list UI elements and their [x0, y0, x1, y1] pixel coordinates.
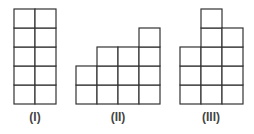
figure-i-label: (I)	[29, 110, 40, 124]
grid-cell	[222, 47, 243, 66]
figure-ii-label: (II)	[111, 110, 126, 124]
grid-cell	[97, 66, 118, 85]
grid-cell	[76, 85, 97, 104]
grid-cell	[35, 9, 56, 28]
grid-cell	[201, 85, 222, 104]
grid-cell	[201, 28, 222, 47]
grid-cell	[14, 85, 35, 104]
block-figures-diagram: (I) (II) (III)	[0, 0, 254, 134]
grid-cell	[14, 47, 35, 66]
grid-cell	[118, 66, 139, 85]
grid-cell	[139, 85, 160, 104]
grid-cell	[222, 28, 243, 47]
grid-cell	[180, 66, 201, 85]
grid-cell	[14, 28, 35, 47]
figure-ii	[76, 28, 160, 104]
figure-i	[14, 9, 56, 104]
grid-cell	[118, 85, 139, 104]
grid-cell	[14, 9, 35, 28]
grid-cell	[97, 47, 118, 66]
grid-cell	[76, 66, 97, 85]
grid-cell	[201, 9, 222, 28]
grid-cell	[180, 85, 201, 104]
figure-iii	[180, 9, 243, 104]
grid-cell	[180, 47, 201, 66]
grid-cell	[222, 66, 243, 85]
grid-cell	[201, 47, 222, 66]
grid-cell	[97, 85, 118, 104]
grid-cell	[35, 28, 56, 47]
grid-cell	[35, 47, 56, 66]
grid-cell	[139, 28, 160, 47]
grid-cell	[222, 85, 243, 104]
grid-cell	[201, 66, 222, 85]
grid-cell	[35, 66, 56, 85]
grid-cell	[139, 47, 160, 66]
grid-cell	[14, 66, 35, 85]
grid-cell	[139, 66, 160, 85]
grid-cell	[118, 47, 139, 66]
grid-cell	[35, 85, 56, 104]
figure-iii-label: (III)	[202, 110, 220, 124]
